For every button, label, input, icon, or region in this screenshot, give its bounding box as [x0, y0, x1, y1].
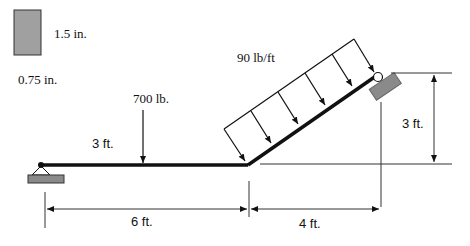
point-load-label: 700 lb.	[133, 91, 169, 106]
distributed-load-label: 90 lb/ft	[237, 50, 275, 65]
horizontal-span-label: 6 ft.	[131, 214, 153, 229]
roller-support-right	[369, 73, 401, 101]
vertical-rise-label: 3 ft.	[402, 116, 424, 131]
inclined-horizontal-label: 4 ft.	[299, 216, 321, 231]
cross-section-width-label: 0.75 in.	[18, 72, 57, 87]
cross-section-rect	[14, 10, 41, 55]
cross-section-height-label: 1.5 in.	[54, 26, 87, 41]
beam-inclined	[248, 76, 376, 165]
point-load-position-label: 3 ft.	[92, 136, 114, 151]
beam-diagram: 1.5 in. 0.75 in. 700 lb. 3 ft. 90 lb/ft …	[0, 0, 470, 246]
